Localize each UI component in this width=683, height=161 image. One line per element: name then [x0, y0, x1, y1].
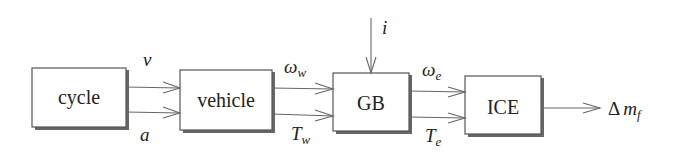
block-gearbox: GB [333, 73, 412, 134]
block-vehicle-label: vehicle [197, 89, 255, 111]
signal-t-w-label: Tw [291, 123, 311, 147]
arrow-t-e [409, 113, 465, 123]
block-gearbox-label: GB [357, 92, 385, 114]
block-ice: ICE [465, 76, 544, 137]
signal-omega-e-label: ωe [422, 59, 441, 83]
signal-a-label: a [140, 124, 150, 145]
arrow-delta-mf [541, 103, 600, 113]
arrow-v [126, 82, 180, 93]
block-ice-label: ICE [487, 96, 519, 118]
block-diagram: cycle vehicle GB ICE v a ωw Tw [0, 0, 683, 161]
signal-delta-mf-label: Δmf [608, 98, 643, 122]
arrow-i [366, 18, 376, 73]
signal-t-e-label: Te [425, 125, 442, 149]
block-vehicle: vehicle [180, 70, 275, 133]
arrow-t-w [272, 110, 333, 121]
signal-omega-w-label: ωw [284, 56, 306, 80]
block-cycle: cycle [32, 68, 129, 130]
block-cycle-label: cycle [58, 86, 100, 109]
arrow-omega-e [409, 87, 465, 97]
arrow-omega-w [272, 83, 333, 94]
signal-v-label: v [143, 49, 152, 70]
arrow-a [126, 107, 180, 118]
signal-i-label: i [382, 17, 387, 38]
